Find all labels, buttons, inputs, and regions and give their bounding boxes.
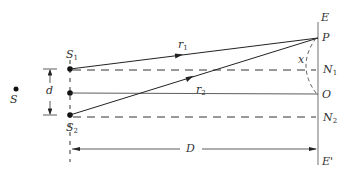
label-distance: D	[186, 143, 195, 154]
ray-r2	[70, 38, 318, 115]
label-r1: r1	[178, 39, 188, 52]
ray-r2-arrow	[186, 75, 195, 82]
d-arrow-right	[309, 147, 317, 151]
label-n1: N1	[323, 64, 337, 77]
label-source: S	[10, 94, 18, 105]
source-dot	[14, 87, 19, 92]
double-slit-diagram: S S1 S2 d r1 r2 E P x N1 O N2 E' D	[0, 0, 343, 176]
label-s2: S2	[66, 122, 78, 135]
label-o: O	[322, 89, 331, 100]
label-p: P	[322, 32, 329, 43]
label-n2: N2	[323, 112, 337, 125]
d-arrow-left	[72, 147, 80, 151]
arc-p-to-o	[306, 38, 316, 93]
center-line	[70, 93, 318, 94]
label-e-prime: E'	[322, 156, 333, 167]
label-r2: r2	[196, 84, 206, 97]
ray-r1	[70, 38, 318, 69]
label-d: d	[45, 85, 54, 96]
label-e: E	[321, 12, 329, 23]
label-x: x	[298, 54, 304, 65]
label-s1: S1	[66, 49, 78, 62]
